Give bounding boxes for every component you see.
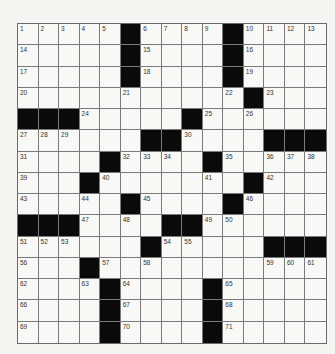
grid-cell[interactable]: [39, 67, 60, 88]
grid-cell[interactable]: 21: [121, 88, 142, 109]
grid-cell[interactable]: [162, 67, 183, 88]
grid-cell[interactable]: [244, 258, 265, 279]
grid-cell[interactable]: [203, 258, 224, 279]
grid-cell[interactable]: 25: [203, 109, 224, 130]
grid-cell[interactable]: 14: [18, 45, 39, 66]
grid-cell[interactable]: [80, 237, 101, 258]
grid-cell[interactable]: [39, 173, 60, 194]
grid-cell[interactable]: [39, 45, 60, 66]
grid-cell[interactable]: 41: [203, 173, 224, 194]
grid-cell[interactable]: [121, 173, 142, 194]
grid-cell[interactable]: [39, 152, 60, 173]
grid-cell[interactable]: [182, 258, 203, 279]
grid-cell[interactable]: 7: [162, 24, 183, 45]
grid-cell[interactable]: [80, 45, 101, 66]
grid-cell[interactable]: [203, 237, 224, 258]
grid-cell[interactable]: 30: [182, 130, 203, 151]
grid-cell[interactable]: 38: [305, 152, 326, 173]
grid-cell[interactable]: [100, 215, 121, 236]
grid-cell[interactable]: [305, 300, 326, 321]
grid-cell[interactable]: 66: [18, 300, 39, 321]
grid-cell[interactable]: [203, 88, 224, 109]
grid-cell[interactable]: 47: [80, 215, 101, 236]
grid-cell[interactable]: 19: [244, 67, 265, 88]
grid-cell[interactable]: [244, 130, 265, 151]
grid-cell[interactable]: [244, 279, 265, 300]
grid-cell[interactable]: 8: [182, 24, 203, 45]
grid-cell[interactable]: 10: [244, 24, 265, 45]
grid-cell[interactable]: 71: [223, 322, 244, 343]
grid-cell[interactable]: 34: [162, 152, 183, 173]
grid-cell[interactable]: [223, 173, 244, 194]
grid-cell[interactable]: 5: [100, 24, 121, 45]
grid-cell[interactable]: [305, 322, 326, 343]
grid-cell[interactable]: [264, 215, 285, 236]
grid-cell[interactable]: [182, 279, 203, 300]
grid-cell[interactable]: [59, 173, 80, 194]
grid-cell[interactable]: [305, 215, 326, 236]
grid-cell[interactable]: 48: [121, 215, 142, 236]
grid-cell[interactable]: 35: [223, 152, 244, 173]
grid-cell[interactable]: [80, 130, 101, 151]
grid-cell[interactable]: [285, 88, 306, 109]
grid-cell[interactable]: 70: [121, 322, 142, 343]
grid-cell[interactable]: 69: [18, 322, 39, 343]
grid-cell[interactable]: [305, 279, 326, 300]
grid-cell[interactable]: [59, 279, 80, 300]
grid-cell[interactable]: 9: [203, 24, 224, 45]
grid-cell[interactable]: [141, 322, 162, 343]
grid-cell[interactable]: 16: [244, 45, 265, 66]
grid-cell[interactable]: [203, 67, 224, 88]
grid-cell[interactable]: 11: [264, 24, 285, 45]
grid-cell[interactable]: [285, 279, 306, 300]
grid-cell[interactable]: [264, 109, 285, 130]
grid-cell[interactable]: [39, 88, 60, 109]
grid-cell[interactable]: 1: [18, 24, 39, 45]
grid-cell[interactable]: 44: [80, 194, 101, 215]
grid-cell[interactable]: 13: [305, 24, 326, 45]
grid-cell[interactable]: [162, 88, 183, 109]
grid-cell[interactable]: 50: [223, 215, 244, 236]
grid-cell[interactable]: [100, 194, 121, 215]
grid-cell[interactable]: 55: [182, 237, 203, 258]
grid-cell[interactable]: 62: [18, 279, 39, 300]
grid-cell[interactable]: [100, 109, 121, 130]
grid-cell[interactable]: 12: [285, 24, 306, 45]
grid-cell[interactable]: 32: [121, 152, 142, 173]
grid-cell[interactable]: 52: [39, 237, 60, 258]
grid-cell[interactable]: 58: [141, 258, 162, 279]
grid-cell[interactable]: [59, 322, 80, 343]
grid-cell[interactable]: [182, 67, 203, 88]
grid-cell[interactable]: [223, 130, 244, 151]
grid-cell[interactable]: 28: [39, 130, 60, 151]
grid-cell[interactable]: [264, 45, 285, 66]
grid-cell[interactable]: [244, 322, 265, 343]
grid-cell[interactable]: 60: [285, 258, 306, 279]
grid-cell[interactable]: [80, 322, 101, 343]
grid-cell[interactable]: [305, 109, 326, 130]
grid-cell[interactable]: 15: [141, 45, 162, 66]
grid-cell[interactable]: 22: [223, 88, 244, 109]
grid-cell[interactable]: [141, 109, 162, 130]
grid-cell[interactable]: [141, 279, 162, 300]
grid-cell[interactable]: [203, 45, 224, 66]
grid-cell[interactable]: [305, 194, 326, 215]
grid-cell[interactable]: [39, 322, 60, 343]
grid-cell[interactable]: 54: [162, 237, 183, 258]
grid-cell[interactable]: [264, 322, 285, 343]
grid-cell[interactable]: [59, 300, 80, 321]
grid-cell[interactable]: 43: [18, 194, 39, 215]
grid-cell[interactable]: [285, 322, 306, 343]
grid-cell[interactable]: [59, 88, 80, 109]
grid-cell[interactable]: [80, 67, 101, 88]
grid-cell[interactable]: [285, 109, 306, 130]
grid-cell[interactable]: [100, 88, 121, 109]
grid-cell[interactable]: [182, 152, 203, 173]
grid-cell[interactable]: [305, 88, 326, 109]
grid-cell[interactable]: [305, 45, 326, 66]
grid-cell[interactable]: 4: [80, 24, 101, 45]
grid-cell[interactable]: [264, 67, 285, 88]
grid-cell[interactable]: [121, 109, 142, 130]
grid-cell[interactable]: [285, 45, 306, 66]
grid-cell[interactable]: 36: [264, 152, 285, 173]
